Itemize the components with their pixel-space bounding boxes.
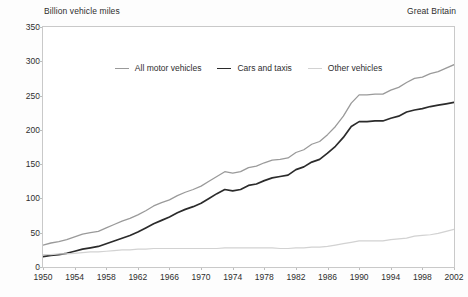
series-line	[43, 229, 454, 254]
x-axis-tick-label: 1974	[223, 272, 242, 282]
x-axis-tick-label: 2002	[445, 272, 464, 282]
x-axis-tick-label: 1998	[413, 272, 432, 282]
legend-label: Cars and taxis	[237, 63, 291, 73]
series-line	[43, 65, 454, 245]
legend-item: All motor vehicles	[115, 63, 202, 73]
chart-figure: Billion vehicle miles Great Britain 3503…	[0, 0, 468, 297]
x-axis-tick-label: 1986	[318, 272, 337, 282]
legend-swatch-icon	[115, 68, 129, 69]
legend-item: Cars and taxis	[217, 63, 291, 73]
x-axis-tick-label: 1970	[192, 272, 211, 282]
x-axis-tick-label: 1982	[286, 272, 305, 282]
legend-label: All motor vehicles	[135, 63, 202, 73]
x-axis-tick-label: 1966	[160, 272, 179, 282]
x-axis-tick-label: 1978	[255, 272, 274, 282]
x-axis-tick-label: 1954	[65, 272, 84, 282]
x-axis-tick-label: 1950	[34, 272, 53, 282]
legend-swatch-icon	[217, 68, 231, 69]
x-axis-tick-label: 1958	[97, 272, 116, 282]
legend: All motor vehiclesCars and taxisOther ve…	[42, 58, 455, 74]
x-axis-tick-label: 1994	[381, 272, 400, 282]
legend-label: Other vehicles	[328, 63, 382, 73]
series-line	[43, 102, 454, 256]
legend-swatch-icon	[308, 68, 322, 69]
legend-item: Other vehicles	[308, 63, 382, 73]
x-axis-tick-label: 1962	[128, 272, 147, 282]
x-axis-tick-label: 1990	[350, 272, 369, 282]
